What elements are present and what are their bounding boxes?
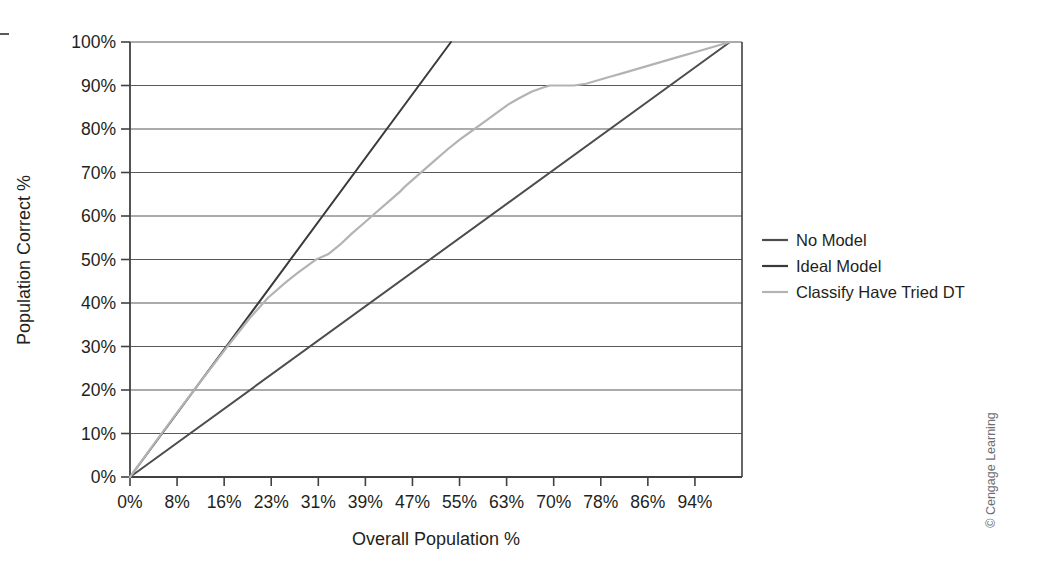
x-tick-label: 78% xyxy=(583,492,618,512)
x-tick-label: 31% xyxy=(301,492,336,512)
y-axis-ticks xyxy=(121,42,130,477)
y-tick-label: 40% xyxy=(81,293,116,313)
credit-text: © Cengage Learning xyxy=(984,412,998,528)
x-axis-title: Overall Population % xyxy=(352,529,520,549)
y-tick-label: 80% xyxy=(81,119,116,139)
x-tick-label: 86% xyxy=(630,492,665,512)
chart-canvas: 0%10%20%30%40%50%60%70%80%90%100% 0%8%16… xyxy=(0,0,1042,577)
x-tick-label: 47% xyxy=(395,492,430,512)
x-tick-label: 16% xyxy=(207,492,242,512)
y-tick-label: 10% xyxy=(81,424,116,444)
legend-label: Classify Have Tried DT xyxy=(796,283,965,301)
x-tick-label: 8% xyxy=(164,492,189,512)
y-tick-label: 20% xyxy=(81,380,116,400)
legend-label: Ideal Model xyxy=(796,257,881,275)
y-tick-label: 100% xyxy=(71,32,116,52)
x-tick-label: 0% xyxy=(117,492,142,512)
x-tick-label: 63% xyxy=(489,492,524,512)
x-tick-label: 23% xyxy=(254,492,289,512)
y-axis-title: Population Correct % xyxy=(14,175,34,345)
x-axis-ticks xyxy=(130,477,695,486)
chart-legend: No ModelIdeal ModelClassify Have Tried D… xyxy=(762,231,965,301)
y-tick-label: 70% xyxy=(81,163,116,183)
legend-label: No Model xyxy=(796,231,867,249)
y-tick-label: 60% xyxy=(81,206,116,226)
y-tick-label: 90% xyxy=(81,76,116,96)
y-tick-label: 30% xyxy=(81,337,116,357)
y-tick-label: 0% xyxy=(91,467,116,487)
x-tick-label: 39% xyxy=(348,492,383,512)
y-axis-tick-labels: 0%10%20%30%40%50%60%70%80%90%100% xyxy=(71,32,116,487)
x-tick-label: 94% xyxy=(677,492,712,512)
x-tick-label: 55% xyxy=(442,492,477,512)
y-tick-label: 50% xyxy=(81,250,116,270)
x-axis-tick-labels: 0%8%16%23%31%39%47%55%63%70%78%86%94% xyxy=(117,492,712,512)
x-tick-label: 70% xyxy=(536,492,571,512)
chart-figure: 0%10%20%30%40%50%60%70%80%90%100% 0%8%16… xyxy=(0,0,1042,577)
